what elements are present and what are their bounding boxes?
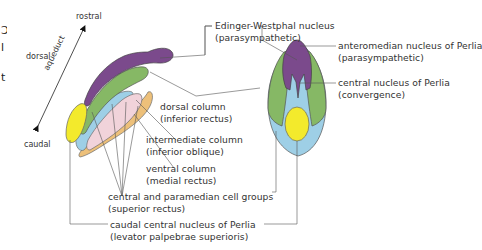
label-edinger-westphal-name: Edinger-Westphal nucleus <box>215 20 335 32</box>
label-ventral-column-name: ventral column <box>146 163 217 175</box>
label-intermediate-column-name: intermediate column <box>146 134 243 146</box>
label-ventral-column-sub: (medial rectus) <box>146 175 217 187</box>
label-central-perlia-name: central nucleus of Perlia <box>338 77 450 89</box>
label-edinger-westphal-sub: (parasympathetic) <box>215 32 335 44</box>
cutoff-glyph-3: t <box>1 71 7 84</box>
label-caudal-central-name: caudal central nucleus of Perlia <box>110 219 256 231</box>
label-central-paramedian-name: central and paramedian cell groups <box>108 191 273 203</box>
label-edinger-westphal: Edinger-Westphal nucleus (parasympatheti… <box>215 20 335 43</box>
label-anteromedian: anteromedian nucleus of Perlia (parasymp… <box>338 40 482 63</box>
label-anteromedian-name: anteromedian nucleus of Perlia <box>338 40 482 52</box>
dorsal-view-yellow <box>285 107 309 141</box>
label-dorsal-column-name: dorsal column <box>160 101 232 113</box>
cutoff-glyph-1: Ɔ <box>1 24 7 37</box>
label-anteromedian-sub: (parasympathetic) <box>338 52 482 64</box>
label-caudal-central: caudal central nucleus of Perlia (levato… <box>110 219 256 242</box>
axis-label-caudal: caudal <box>24 140 51 149</box>
label-dorsal-column-sub: (inferior rectus) <box>160 113 232 125</box>
label-caudal-central-sub: (levator palpebrae superioris) <box>110 231 256 243</box>
dorsal-view <box>268 40 326 156</box>
cutoff-glyph-2: l <box>1 41 7 54</box>
label-central-perlia-sub: (convergence) <box>338 89 450 101</box>
label-dorsal-column: dorsal column (inferior rectus) <box>160 101 232 124</box>
axis-label-rostral: rostral <box>76 12 102 21</box>
label-central-paramedian-sub: (superior rectus) <box>108 203 273 215</box>
label-ventral-column: ventral column (medial rectus) <box>146 163 217 186</box>
label-central-paramedian: central and paramedian cell groups (supe… <box>108 191 273 214</box>
label-intermediate-column-sub: (inferior oblique) <box>146 146 243 158</box>
label-intermediate-column: intermediate column (inferior oblique) <box>146 134 243 157</box>
label-central-perlia: central nucleus of Perlia (convergence) <box>338 77 450 100</box>
